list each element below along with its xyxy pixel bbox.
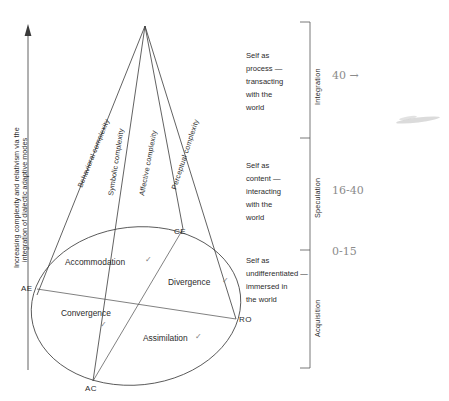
- stage-1-line-3: transacting: [246, 77, 283, 86]
- pole-label-ce: CE: [174, 227, 186, 236]
- cone-lines: [37, 26, 236, 381]
- bracket-label-acquisition: Acquisition: [313, 299, 322, 337]
- vertical-axis-caption-line2: integration of dialectic adaptive modes: [20, 138, 29, 262]
- cone-label-perceptual: Perceptual complexity: [169, 118, 200, 191]
- stage-1-line-5: world: [245, 103, 264, 112]
- quadrant-check-accommodation: ✓: [145, 255, 152, 264]
- stage-2-line-5: world: [245, 213, 264, 222]
- stage-2-line-1: Self as: [246, 161, 269, 170]
- cone-label-behavioral: Behavioral complexity: [76, 117, 112, 188]
- stage-3-line-3: immersed in: [246, 282, 287, 291]
- quadrant-check-convergence: ✓: [100, 320, 107, 329]
- bracket-label-speculation: Speculation: [313, 178, 322, 218]
- stage-2-line-4: with the: [245, 200, 272, 209]
- stage-1-line-2: process —: [246, 64, 283, 73]
- annotation-age-integration: 40 →: [332, 69, 359, 82]
- stage-1-line-4: with the: [245, 90, 272, 99]
- bracket-labels: Integration Speculation Acquisition: [313, 68, 322, 337]
- cone-label-affective: Affective complexity: [137, 129, 159, 196]
- stage-bracket: [300, 22, 310, 368]
- quadrant-label-accommodation: Accommodation: [65, 257, 125, 267]
- base-circle: [23, 216, 248, 395]
- stage-3-line-1: Self as: [246, 256, 269, 265]
- stage-2-line-2: content —: [246, 174, 281, 183]
- pole-label-ro: RO: [239, 315, 252, 324]
- quadrant-check-assimilation: ✓: [195, 332, 202, 341]
- paper-smudge: [396, 115, 440, 125]
- stage-3-line-2: undifferentiated —: [246, 269, 308, 278]
- pole-label-ac: AC: [85, 384, 97, 393]
- quadrant-labels: Accommodation ✓ Divergence ✓ Convergence…: [61, 255, 229, 343]
- learning-axes: [37, 229, 236, 381]
- stage-2-line-3: interacting: [246, 187, 281, 196]
- stage-3-line-4: the world: [246, 295, 277, 304]
- quadrant-label-divergence: Divergence: [168, 277, 211, 287]
- bracket-label-integration: Integration: [313, 68, 322, 105]
- handwritten-annotations: 40 → 16-40 0-15: [332, 69, 364, 258]
- pole-label-ae: AE: [21, 284, 32, 293]
- annotation-age-acquisition: 0-15: [332, 245, 357, 258]
- axis-arrow-head: [25, 24, 32, 36]
- vertical-axis-caption: Increasing complexity and relativism via…: [12, 127, 29, 268]
- stage-1-line-1: Self as: [246, 51, 269, 60]
- quadrant-check-divergence: ✓: [222, 276, 229, 285]
- annotation-age-speculation: 16-40: [332, 184, 364, 197]
- stage-descriptions: Self as process — transacting with the w…: [245, 51, 308, 304]
- quadrant-label-convergence: Convergence: [61, 308, 111, 318]
- cone-label-symbolic: Symbolic complexity: [106, 128, 126, 197]
- diagram-canvas: Increasing complexity and relativism via…: [0, 0, 449, 401]
- quadrant-label-assimilation: Assimilation: [143, 333, 188, 343]
- cone-labels: Behavioral complexity Symbolic complexit…: [76, 117, 201, 196]
